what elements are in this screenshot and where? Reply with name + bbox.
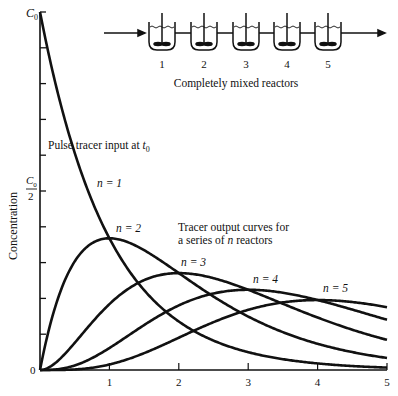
- y-label-c0: C0: [26, 6, 38, 22]
- impeller-icon: [196, 43, 204, 46]
- y-axis-title: Concentration: [6, 192, 20, 260]
- reactor-5: [315, 13, 341, 50]
- impeller-icon: [204, 43, 212, 46]
- reactor-diagram: [104, 13, 385, 50]
- impeller-icon: [279, 43, 287, 46]
- label-n5: n = 5: [323, 282, 348, 294]
- impeller-icon: [287, 43, 295, 46]
- reactor-label: 5: [325, 58, 331, 70]
- output-annotation-line2: a series of n reactors: [178, 234, 273, 246]
- reactor-label: 2: [201, 58, 207, 70]
- outflow-arrow-icon: [378, 30, 385, 36]
- inflow-arrow-icon: [138, 30, 145, 36]
- reactor-label: 1: [159, 58, 165, 70]
- tracer-chart: C0 C0 2 0 Concentration 12345 Pulse trac…: [0, 0, 398, 396]
- label-n3: n = 3: [181, 256, 206, 268]
- output-annotation-line1: Tracer output curves for: [178, 221, 289, 234]
- label-n2: n = 2: [116, 222, 141, 234]
- reactor-caption: Completely mixed reactors: [174, 77, 299, 90]
- reactor-1: [149, 13, 175, 50]
- y-label-half-den: 2: [28, 190, 34, 202]
- x-tick-label: 3: [245, 376, 251, 388]
- reactor-labels: 12345: [159, 58, 331, 70]
- impeller-icon: [320, 43, 328, 46]
- impeller-icon: [154, 43, 162, 46]
- y-label-half-num: C0: [26, 174, 37, 189]
- reactor-2: [191, 13, 217, 50]
- x-tick-label: 1: [107, 376, 113, 388]
- pulse-annotation: Pulse tracer input at t0: [48, 139, 150, 154]
- reactor-label: 4: [284, 58, 290, 70]
- label-n4: n = 4: [253, 273, 278, 285]
- curve-n1: [40, 12, 387, 368]
- reactor-4: [274, 13, 300, 50]
- label-n1: n = 1: [97, 177, 122, 189]
- axes: [40, 12, 387, 370]
- impeller-icon: [238, 43, 246, 46]
- reactor-label: 3: [243, 58, 249, 70]
- x-tick-label: 5: [384, 376, 390, 388]
- x-tick-label: 4: [315, 376, 321, 388]
- origin-label: 0: [30, 364, 36, 376]
- curves: [40, 12, 387, 370]
- impeller-icon: [162, 43, 170, 46]
- x-tick-labels: 12345: [107, 376, 391, 388]
- x-tick-label: 2: [176, 376, 182, 388]
- reactor-3: [233, 13, 259, 50]
- impeller-icon: [328, 43, 336, 46]
- impeller-icon: [246, 43, 254, 46]
